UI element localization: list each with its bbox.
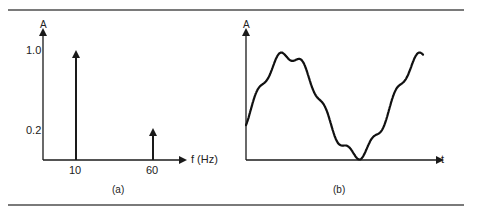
panel-a-x-tick-10: 10 bbox=[69, 164, 81, 176]
panel-b-caption: (b) bbox=[333, 184, 345, 195]
panel-a-y-tick-1-0: 1.0 bbox=[26, 44, 41, 56]
panel-a-x-tick-60: 60 bbox=[146, 164, 158, 176]
panel-b-x-axis-label: t bbox=[441, 153, 444, 165]
panel-b-axes bbox=[246, 32, 440, 160]
figure-canvas bbox=[0, 0, 478, 211]
composite-waveform bbox=[246, 53, 423, 160]
panel-a-y-axis-label: A bbox=[40, 19, 47, 30]
spectral-line-60hz bbox=[149, 128, 157, 160]
panel-a-y-tick-0-2: 0.2 bbox=[26, 124, 41, 136]
panel-b-y-axis-label: A bbox=[243, 19, 250, 30]
panel-a-caption: (a) bbox=[112, 184, 124, 195]
panel-a-x-axis-label: f (Hz) bbox=[191, 153, 218, 165]
spectral-line-10hz bbox=[72, 50, 80, 160]
panel-a-axes bbox=[43, 32, 183, 160]
